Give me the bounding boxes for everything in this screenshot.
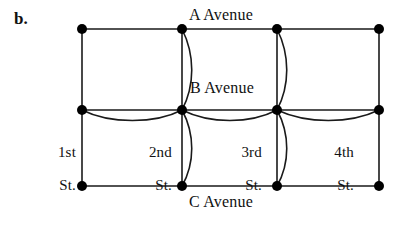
- vertex-3rd-A: [272, 24, 282, 34]
- edge-b-avenue-2nd-3rd-parallel: [182, 110, 277, 121]
- edge-b-avenue-1st-2nd-parallel: [82, 110, 182, 121]
- vertex-2nd-C: [177, 181, 187, 191]
- label-4th-street: 4th St.: [314, 128, 354, 225]
- street-ordinal: 2nd: [149, 144, 172, 160]
- vertex-3rd-C: [272, 181, 282, 191]
- street-suffix: St.: [314, 177, 354, 193]
- part-label: b.: [14, 10, 28, 28]
- label-1st-street: 1st St.: [38, 128, 76, 225]
- vertex-4th-B: [374, 105, 384, 115]
- vertex-1st-A: [77, 24, 87, 34]
- street-ordinal: 3rd: [241, 144, 262, 160]
- vertex-1st-B: [77, 105, 87, 115]
- vertex-3rd-B: [272, 105, 282, 115]
- edge-3rd-street-b-c-parallel: [277, 110, 287, 186]
- vertex-4th-A: [374, 24, 384, 34]
- street-suffix: St.: [220, 177, 262, 193]
- street-suffix: St.: [38, 177, 76, 193]
- vertex-2nd-A: [177, 24, 187, 34]
- edge-3rd-street-a-b-parallel: [277, 29, 287, 110]
- edge-2nd-street-b-c-parallel: [182, 110, 192, 186]
- label-a-avenue: A Avenue: [189, 6, 253, 23]
- label-3rd-street: 3rd St.: [220, 128, 262, 225]
- street-ordinal: 4th: [334, 144, 354, 160]
- street-ordinal: 1st: [58, 144, 76, 160]
- vertex-1st-C: [77, 181, 87, 191]
- edge-b-avenue-3rd-4th-parallel: [277, 110, 379, 121]
- figure-container: b. A Avenue B Avenue C Avenue 1st St. 2n…: [0, 0, 401, 226]
- label-b-avenue: B Avenue: [190, 79, 254, 96]
- street-suffix: St.: [128, 177, 172, 193]
- vertex-2nd-B: [177, 105, 187, 115]
- edge-2nd-street-a-b-parallel: [182, 29, 192, 110]
- vertex-4th-C: [374, 181, 384, 191]
- label-2nd-street: 2nd St.: [128, 128, 172, 225]
